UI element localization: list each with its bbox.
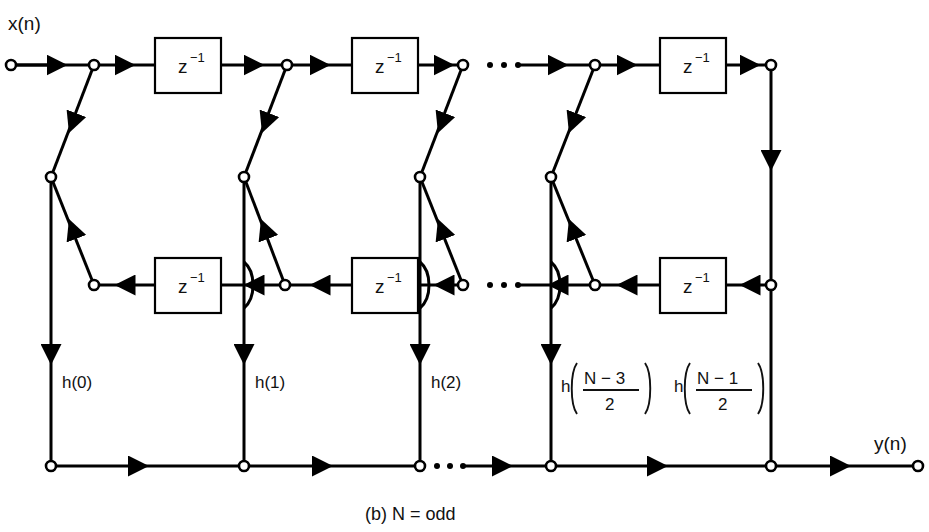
sum-node-1 [239,461,249,471]
delay-label: z [178,276,188,297]
fraction-numerator: N − 1 [697,369,738,388]
tap-node-top-3 [590,60,600,70]
adder-node-3 [546,172,556,182]
tap-node-mid-1 [280,280,290,290]
delay-block-mid-3: z −1 [660,258,726,313]
coefficient-prefix: h [561,377,570,396]
sum-node-4 [766,461,776,471]
delay-label: z [375,56,385,77]
tap-node-top-4 [766,60,776,70]
tap-node-top-2 [458,60,468,70]
adder-node-1 [239,172,249,182]
signal-flow-diagram: z −1 z −1 z −1 z −1 z −1 [0,0,929,532]
delay-block-top-2: z −1 [352,38,418,93]
delay-exponent: −1 [190,270,205,285]
ellipsis-output-row [434,463,466,469]
output-label: y(n) [874,433,907,454]
delay-label: z [683,276,693,297]
tap-node-mid-4 [766,280,776,290]
delay-block-top-1: z −1 [155,38,221,93]
tap-node-top-1 [282,60,292,70]
delay-block-mid-1: z −1 [155,258,221,313]
coefficient-prefix: h [674,377,683,396]
figure-caption: (b) N = odd [365,504,456,524]
junction-nodes [6,60,923,471]
sum-node-0 [46,461,56,471]
coefficient-label-1: h(1) [255,373,285,392]
sum-node-3 [546,461,556,471]
delay-label: z [375,276,385,297]
continuation-dots [434,62,521,469]
delay-exponent: −1 [695,270,710,285]
delay-block-mid-2: z −1 [352,258,418,313]
adder-node-0 [46,172,56,182]
delay-exponent: −1 [387,50,402,65]
delay-block-top-3: z −1 [660,38,726,93]
adder-input-diagonals-lower [51,177,595,285]
tap-node-mid-2 [458,280,468,290]
coefficient-label-2: h(2) [431,373,461,392]
output-terminal-node [913,461,923,471]
adder-node-2 [415,172,425,182]
input-terminal-node [6,60,16,70]
adder-input-diagonals-upper [51,65,595,177]
tap-node-mid-3 [590,280,600,290]
tap-node-top-0 [89,60,99,70]
coefficient-label-3: h N − 3 2 [561,363,650,414]
fraction-denominator: 2 [605,395,614,414]
delay-exponent: −1 [387,270,402,285]
fraction-numerator: N − 3 [584,369,625,388]
ellipsis-top-row [487,62,521,68]
tap-node-mid-0 [89,280,99,290]
coefficient-label-4: h N − 1 2 [674,363,763,414]
fraction-denominator: 2 [718,395,727,414]
delay-exponent: −1 [695,50,710,65]
coefficient-label-0: h(0) [62,373,92,392]
ellipsis-middle-row [487,282,521,288]
delay-label: z [178,56,188,77]
delay-exponent: −1 [190,50,205,65]
delay-label: z [683,56,693,77]
flow-graph-canvas: z −1 z −1 z −1 z −1 z −1 [0,0,929,532]
input-label: x(n) [8,13,41,34]
sum-node-2 [415,461,425,471]
